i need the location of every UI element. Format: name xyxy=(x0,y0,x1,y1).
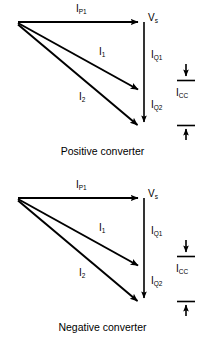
label-i1: I1 xyxy=(99,223,105,233)
phasor-diagram-figure: IP1 Vs I1 IQ1 I2 IQ2 ICC Positive conver… xyxy=(0,0,205,352)
label-icc: ICC xyxy=(176,88,188,98)
label-vs: Vs xyxy=(148,189,158,199)
vector-i2 xyxy=(18,25,138,126)
label-iq2: IQ2 xyxy=(151,276,162,286)
vector-i2 xyxy=(18,201,138,302)
label-iq2: IQ2 xyxy=(151,100,162,110)
vector-i1 xyxy=(18,23,138,90)
caption-positive-converter: Positive converter xyxy=(0,145,205,157)
label-i1: I1 xyxy=(99,47,105,57)
label-vs: Vs xyxy=(148,13,158,23)
negative-converter-panel: IP1 Vs I1 IQ1 I2 IQ2 ICC Negative conver… xyxy=(0,176,205,352)
label-icc: ICC xyxy=(176,264,188,274)
vector-i1 xyxy=(18,199,138,266)
label-ip1: IP1 xyxy=(76,4,87,14)
positive-converter-panel: IP1 Vs I1 IQ1 I2 IQ2 ICC Positive conver… xyxy=(0,0,205,176)
caption-negative-converter: Negative converter xyxy=(0,321,205,333)
label-iq1: IQ1 xyxy=(151,50,162,60)
label-ip1: IP1 xyxy=(76,180,87,190)
label-iq1: IQ1 xyxy=(151,226,162,236)
label-i2: I2 xyxy=(79,92,85,102)
label-i2: I2 xyxy=(79,268,85,278)
